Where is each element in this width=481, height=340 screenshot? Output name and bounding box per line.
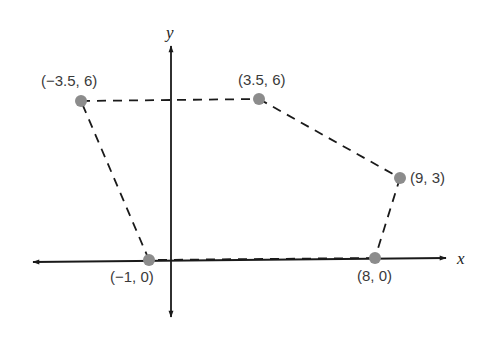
edge-upper-right bbox=[259, 99, 400, 178]
vertex-label: (9, 3) bbox=[410, 169, 445, 186]
polygon-vertices bbox=[75, 93, 406, 266]
polygon-edges bbox=[81, 99, 400, 260]
vertex-label: (3.5, 6) bbox=[238, 71, 286, 88]
vertex-label: (8, 0) bbox=[357, 267, 392, 284]
y-axis-label: y bbox=[164, 23, 174, 42]
vertex-point bbox=[75, 95, 87, 107]
edge-lower-right bbox=[375, 178, 400, 258]
vertex-point bbox=[369, 252, 381, 264]
vertex-label: (−1, 0) bbox=[110, 268, 154, 285]
edge-left bbox=[81, 101, 149, 260]
vertex-label: (−3.5, 6) bbox=[41, 72, 97, 89]
vertex-point bbox=[143, 254, 155, 266]
vertex-point bbox=[394, 172, 406, 184]
vertex-point bbox=[253, 93, 265, 105]
x-axis-label: x bbox=[456, 249, 465, 268]
edge-top bbox=[81, 99, 259, 101]
coordinate-plane-diagram: (−3.5, 6) (3.5, 6) (9, 3) (8, 0) (−1, 0)… bbox=[0, 0, 481, 340]
